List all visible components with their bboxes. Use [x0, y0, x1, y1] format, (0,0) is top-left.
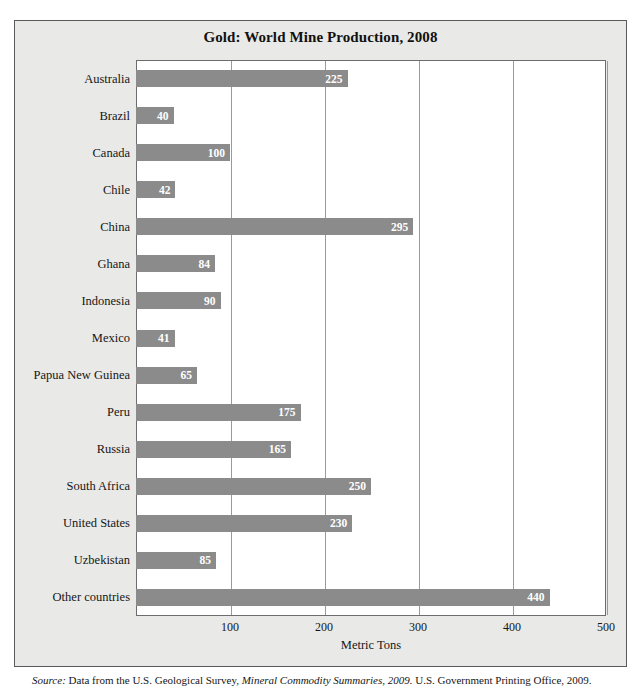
bar: 40: [136, 107, 174, 124]
bar-row: Mexico41: [15, 330, 606, 347]
bar-value-label: 225: [325, 73, 342, 85]
bar-value-label: 40: [157, 110, 169, 122]
bar-value-label: 175: [278, 406, 295, 418]
category-label: Russia: [97, 442, 130, 457]
bar-row: Uzbekistan85: [15, 552, 606, 569]
bar-value-label: 65: [181, 369, 193, 381]
bar-row: Indonesia90: [15, 292, 606, 309]
gridline-500: [607, 61, 608, 615]
bar-row: Australia225: [15, 70, 606, 87]
bar-row: Peru175: [15, 404, 606, 421]
figure-container: Gold: World Mine Production, 2008 Austra…: [14, 20, 627, 667]
bar-value-label: 295: [391, 221, 408, 233]
bar-rows: Australia225Brazil40Canada100Chile42Chin…: [15, 60, 606, 616]
x-tick-300: 300: [409, 620, 427, 635]
bar: 85: [136, 552, 216, 569]
x-tick-200: 200: [315, 620, 333, 635]
bar-value-label: 90: [204, 295, 216, 307]
x-axis-tick-labels: 100200300400500: [136, 620, 606, 636]
bar-value-label: 165: [269, 443, 286, 455]
bar-value-label: 42: [159, 184, 171, 196]
x-axis-title: Metric Tons: [136, 638, 606, 653]
bar: 295: [136, 218, 413, 235]
bar: 65: [136, 367, 197, 384]
bar: 230: [136, 515, 352, 532]
category-label: Papua New Guinea: [34, 368, 131, 383]
x-tick-500: 500: [597, 620, 615, 635]
bar-row: Other countries440: [15, 589, 606, 606]
bar-row: Canada100: [15, 144, 606, 161]
source-note: Source: Data from the U.S. Geological Su…: [32, 673, 612, 687]
source-text-before: Data from the U.S. Geological Survey,: [66, 674, 242, 686]
source-text-after: U.S. Government Printing Office, 2009.: [412, 674, 591, 686]
bar-value-label: 84: [198, 258, 210, 270]
bar-row: Brazil40: [15, 107, 606, 124]
x-tick-100: 100: [221, 620, 239, 635]
bar: 42: [136, 181, 175, 198]
bar: 225: [136, 70, 348, 87]
bar-value-label: 85: [199, 554, 211, 566]
bar: 84: [136, 255, 215, 272]
chart-title: Gold: World Mine Production, 2008: [15, 29, 626, 46]
bar-row: China295: [15, 218, 606, 235]
source-label: Source:: [32, 674, 66, 686]
category-label: Brazil: [99, 108, 130, 123]
bar-row: Russia165: [15, 441, 606, 458]
category-label: South Africa: [66, 479, 130, 494]
bar-row: Ghana84: [15, 255, 606, 272]
bar-value-label: 41: [158, 332, 170, 344]
category-label: Other countries: [53, 590, 130, 605]
bar-row: South Africa250: [15, 478, 606, 495]
bar-row: Chile42: [15, 181, 606, 198]
bar-row: Papua New Guinea65: [15, 367, 606, 384]
category-label: United States: [63, 516, 130, 531]
bar-value-label: 440: [527, 591, 544, 603]
bar: 440: [136, 589, 550, 606]
source-publication-title: Mineral Commodity Summaries, 2009.: [242, 674, 413, 686]
x-tick-400: 400: [503, 620, 521, 635]
bar-value-label: 100: [208, 147, 225, 159]
category-label: China: [100, 219, 130, 234]
category-label: Chile: [103, 182, 130, 197]
bar: 250: [136, 478, 371, 495]
bar-value-label: 250: [349, 480, 366, 492]
category-label: Peru: [107, 405, 130, 420]
category-label: Australia: [84, 71, 130, 86]
category-label: Mexico: [92, 331, 130, 346]
bar: 90: [136, 292, 221, 309]
bar: 175: [136, 404, 301, 421]
bar: 41: [136, 330, 175, 347]
category-label: Uzbekistan: [74, 553, 130, 568]
bar: 100: [136, 144, 230, 161]
category-label: Canada: [93, 145, 130, 160]
category-label: Ghana: [97, 256, 130, 271]
category-label: Indonesia: [81, 293, 130, 308]
bar-value-label: 230: [330, 517, 347, 529]
bar: 165: [136, 441, 291, 458]
bar-row: United States230: [15, 515, 606, 532]
